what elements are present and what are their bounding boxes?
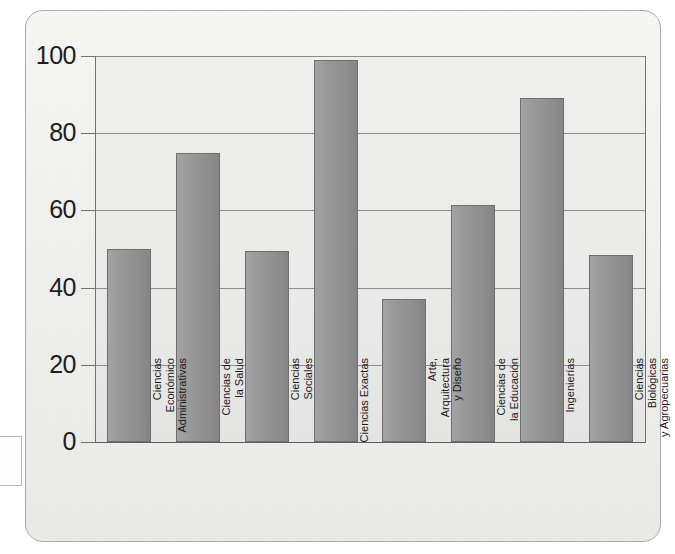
x-tick-label-6: Ingenierías — [564, 358, 577, 450]
x-tick-label-1: Ciencias de la Salud — [220, 358, 245, 450]
x-tick-label-2: Ciencias Sociales — [289, 358, 314, 450]
gridline-100 — [95, 56, 645, 57]
y-tick-label-20: 20 — [18, 352, 76, 377]
y-tickmark-0 — [81, 442, 95, 443]
y-tick-label-100: 100 — [18, 43, 76, 68]
y-tickmark-80 — [81, 133, 95, 134]
bar-3 — [314, 60, 358, 442]
y-tick-label-80: 80 — [18, 120, 76, 145]
x-tick-label-7: Ciencias Biológicas y Agropecuarias — [633, 358, 671, 450]
y-tick-label-0: 0 — [18, 429, 76, 454]
y-tickmark-20 — [81, 365, 95, 366]
bar-chart: 020406080100 Ciencias Económico Administ… — [0, 0, 675, 554]
x-tick-label-5: Ciencias de la Educación — [495, 358, 520, 450]
bar-7 — [589, 255, 633, 442]
y-tickmark-40 — [81, 288, 95, 289]
x-tick-label-0: Ciencias Económico Administrativas — [151, 358, 189, 450]
x-tick-label-4: Arte, Arquitectura y Diseño — [426, 358, 464, 450]
scanned-page: 020406080100 Ciencias Económico Administ… — [0, 0, 675, 554]
y-tickmark-100 — [81, 56, 95, 57]
y-tickmark-60 — [81, 210, 95, 211]
bar-4 — [382, 299, 426, 442]
bar-6 — [520, 98, 564, 442]
bar-0 — [107, 249, 151, 442]
axis-line-left — [95, 56, 96, 443]
x-tick-label-3: Ciencias Exactas — [358, 358, 371, 450]
bar-2 — [245, 251, 289, 442]
y-tick-label-60: 60 — [18, 197, 76, 222]
y-tick-label-40: 40 — [18, 275, 76, 300]
